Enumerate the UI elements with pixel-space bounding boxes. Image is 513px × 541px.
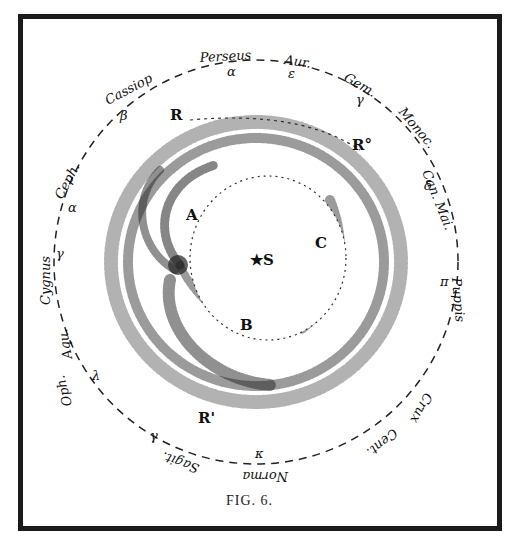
- label-cygnus: Cygnus: [38, 256, 53, 305]
- label-oph: Oph.: [52, 374, 75, 408]
- label-sagit: Sagit.: [160, 449, 201, 476]
- star-norma: κ: [254, 446, 264, 461]
- region-r-degree: R°: [352, 136, 372, 154]
- region-r-prime: R': [198, 409, 215, 427]
- star-sagit: γ: [150, 428, 158, 443]
- label-crux: Crux: [407, 391, 436, 427]
- galaxy-diagram: ★S A B C R R° R' Perseus α Aur. ε Gem. γ…: [0, 0, 513, 541]
- region-b: B: [240, 316, 253, 334]
- star-gem: γ: [356, 92, 364, 107]
- star-ceph: α: [68, 200, 77, 215]
- label-cent: Cent.: [364, 426, 401, 460]
- label-norma: Norma: [243, 469, 290, 484]
- star-aur: ε: [288, 66, 295, 81]
- region-c: C: [315, 234, 327, 252]
- star-can-mai: δ: [424, 178, 432, 193]
- region-r: R: [170, 106, 183, 124]
- label-perseus: Perseus: [198, 47, 252, 65]
- label-aqu: Aqu.: [55, 328, 75, 361]
- star-perseus: α: [227, 64, 236, 79]
- star-cygnus: γ: [56, 246, 64, 261]
- star-cassiop: β: [119, 108, 128, 123]
- star-puppis: π: [439, 274, 449, 289]
- label-ceph: Ceph.: [51, 160, 82, 201]
- sun-label: ★S: [250, 251, 274, 269]
- label-puppis: Puppis: [449, 276, 468, 323]
- region-a: A: [185, 206, 198, 224]
- figure-caption: FIG. 6.: [226, 493, 273, 508]
- label-monoc: Monoc.: [395, 104, 438, 152]
- star-aqu: λ: [91, 368, 100, 383]
- label-cassiop: Cassiop: [102, 70, 155, 108]
